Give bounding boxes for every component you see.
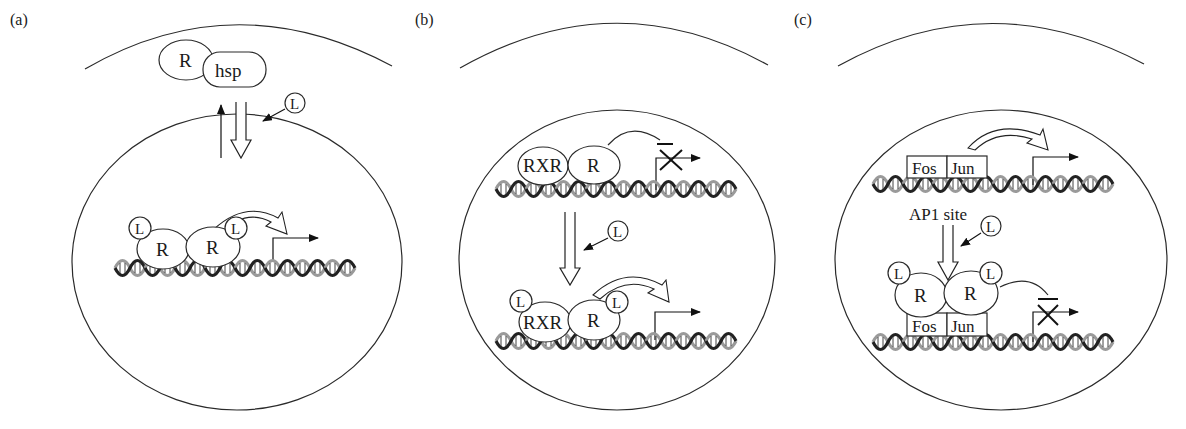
panel-a-label: (a) bbox=[10, 11, 28, 29]
ligand-label: L bbox=[986, 219, 995, 235]
ligand-label-2: L bbox=[612, 295, 621, 311]
panel-b-label: (b) bbox=[415, 11, 434, 29]
ligand-label: L bbox=[613, 224, 622, 240]
receptor-label-1: R bbox=[914, 285, 927, 306]
receptor-label-1: R bbox=[156, 239, 169, 260]
ligand-label-1: L bbox=[894, 266, 903, 282]
ligand-label: L bbox=[290, 96, 299, 112]
inhibition-line bbox=[1000, 281, 1048, 295]
ligand-label-1: L bbox=[135, 221, 144, 237]
receptor-label: R bbox=[587, 310, 600, 331]
inhibition-line bbox=[608, 131, 660, 145]
dna-helix-lower bbox=[873, 335, 1113, 350]
panel-a: (a) R hsp L R R L L bbox=[10, 11, 402, 410]
fos-label: Fos bbox=[912, 317, 937, 336]
jun-label: Jun bbox=[951, 317, 975, 336]
ligand-label-1: L bbox=[516, 294, 525, 310]
receptor-label-2: R bbox=[206, 237, 219, 258]
transition-hollow-arrow bbox=[560, 212, 580, 285]
receptor-label: R bbox=[179, 50, 192, 71]
ap1-site-label: AP1 site bbox=[909, 205, 967, 224]
ligand-label-2: L bbox=[986, 266, 995, 282]
receptor-label-2: R bbox=[964, 283, 977, 304]
panel-b: (b) RXR R L RXR R L L bbox=[415, 11, 775, 410]
ligand-label-2: L bbox=[231, 221, 240, 237]
nucleus-envelope bbox=[459, 110, 775, 410]
activation-arrow bbox=[968, 129, 1048, 150]
hsp-label: hsp bbox=[215, 60, 241, 81]
jun-label: Jun bbox=[951, 159, 975, 178]
ligand-entry-arrow bbox=[961, 233, 981, 246]
cell-membrane bbox=[838, 23, 1144, 66]
panel-c-label: (c) bbox=[794, 11, 812, 29]
dna-helix-upper bbox=[873, 177, 1113, 192]
cell-membrane bbox=[460, 23, 768, 68]
transition-hollow-arrow bbox=[938, 225, 958, 280]
import-hollow-arrow bbox=[231, 102, 251, 158]
promoter-arrow bbox=[273, 238, 318, 262]
panel-c: (c) Fos Jun AP1 site L Fos Jun R R L bbox=[794, 11, 1167, 410]
rxr-label: RXR bbox=[523, 312, 562, 333]
ligand-entry-arrow bbox=[584, 238, 608, 250]
activation-arrow bbox=[593, 277, 669, 302]
nuclear-receptor-diagram: (a) R hsp L R R L L (b) bbox=[0, 0, 1186, 429]
fos-label: Fos bbox=[912, 159, 937, 178]
nucleus-envelope bbox=[835, 110, 1167, 410]
rxr-label: RXR bbox=[523, 155, 562, 176]
receptor-label: R bbox=[587, 155, 600, 176]
